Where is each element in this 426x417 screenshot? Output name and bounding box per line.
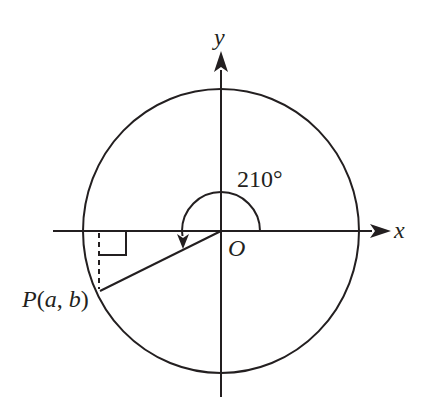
y-axis-label: y [212,24,225,50]
angle-label: 210° [237,166,283,192]
terminal-side [100,231,221,291]
point-a: a [45,286,57,312]
origin-label: O [228,235,245,261]
x-axis-arrow-icon [370,224,391,238]
y-axis-arrow-icon [214,51,228,72]
point-name: P [21,286,37,312]
point-close-paren: ) [81,286,89,312]
point-open-paren: ( [37,286,45,312]
point-comma: , [57,286,69,312]
right-angle-marker [100,231,126,255]
point-label: P(a, b) [21,286,89,312]
x-axis-label: x [393,217,405,243]
unit-circle-diagram: y x O 210° P(a, b) [0,0,426,417]
point-b: b [69,286,81,312]
